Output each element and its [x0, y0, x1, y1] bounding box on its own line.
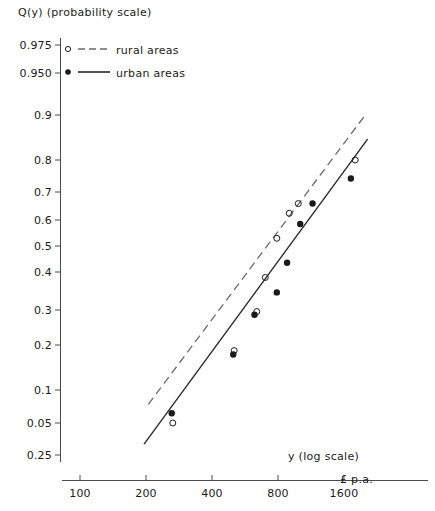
- y-tick-label: 0.950: [0, 67, 52, 80]
- axes: [61, 38, 429, 481]
- y-tick-label: 0.6: [0, 214, 52, 227]
- data-point-urban: [309, 200, 315, 206]
- y-tick-label: 0.2: [0, 339, 52, 352]
- data-point-urban: [251, 312, 257, 318]
- y-tick-label: 0.5: [0, 240, 52, 253]
- legend-item-rural: rural areas: [116, 44, 179, 57]
- x-axis-unit-label: £ p.a.: [340, 473, 373, 486]
- x-axis-title: y (log scale): [288, 450, 359, 463]
- y-tick-label: 0.4: [0, 266, 52, 279]
- data-point-urban: [284, 260, 290, 266]
- legend-rural-marker: [65, 46, 70, 51]
- y-tick-label: 0.25: [0, 449, 52, 462]
- legend-item-urban: urban areas: [116, 67, 185, 80]
- data-point-urban: [348, 175, 354, 181]
- y-tick-label: 0.8: [0, 154, 52, 167]
- data-point-urban: [297, 221, 303, 227]
- y-tick-label: 0.3: [0, 304, 52, 317]
- legend-glyphs: [65, 46, 110, 74]
- y-tick-label: 0.05: [0, 417, 52, 430]
- probability-plot-chart: [0, 0, 435, 511]
- y-tick-label: 0.975: [0, 39, 52, 52]
- x-tick-label: 100: [69, 487, 91, 500]
- data-point-rural: [170, 420, 176, 426]
- fit-line-urban: [144, 139, 368, 444]
- data-point-urban: [274, 289, 280, 295]
- data-point-urban: [169, 410, 175, 416]
- x-tick-label: 200: [135, 487, 157, 500]
- x-tick-label: 400: [201, 487, 223, 500]
- data-point-urban: [230, 351, 236, 357]
- x-tick-label: 800: [267, 487, 289, 500]
- y-axis-title: Q(y) (probability scale): [18, 6, 152, 19]
- y-tick-label: 0.1: [0, 384, 52, 397]
- data-point-rural: [274, 235, 280, 241]
- fit-line-rural: [148, 115, 365, 404]
- y-tick-label: 0.7: [0, 186, 52, 199]
- legend-urban-marker: [65, 69, 71, 75]
- data-series-layer: [144, 115, 368, 444]
- y-tick-label: 0.9: [0, 109, 52, 122]
- x-tick-label: 1600: [330, 487, 359, 500]
